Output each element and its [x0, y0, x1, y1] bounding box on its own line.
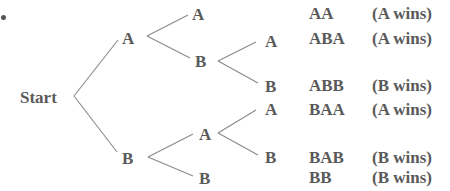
node-BAA: A: [265, 101, 277, 118]
outcome-result: (A wins): [372, 101, 432, 118]
branch-start-B: [74, 96, 117, 152]
branch-AB-A: [218, 42, 256, 61]
node-AB: B: [195, 53, 206, 70]
outcome-result: (B wins): [372, 77, 432, 94]
outcome-sequence: ABB: [309, 77, 344, 94]
tree-diagram: Start A B A B A B A B A B AA (A wins) AB…: [0, 0, 450, 191]
outcome-result: (B wins): [372, 149, 432, 166]
node-ABB: B: [265, 78, 276, 95]
node-B: B: [122, 150, 133, 167]
outcome-sequence: AA: [309, 5, 334, 22]
node-BAB: B: [265, 149, 276, 166]
branch-A-A: [147, 15, 188, 36]
branch-B-A: [148, 134, 193, 157]
outcome-sequence: BB: [309, 169, 332, 186]
outcome-result: (B wins): [372, 169, 432, 186]
branch-AB-B: [218, 61, 258, 83]
branch-B-B: [148, 157, 193, 176]
node-AA: A: [192, 6, 204, 23]
node-ABA: A: [265, 33, 277, 50]
branch-start-A: [74, 40, 118, 96]
outcome-sequence: BAA: [309, 101, 345, 118]
outcome-sequence: ABA: [309, 30, 345, 47]
branch-BA-B: [218, 133, 258, 155]
branch-BA-A: [218, 110, 256, 133]
outcome-result: (A wins): [372, 30, 432, 47]
node-A: A: [122, 30, 134, 47]
outcome-sequence: BAB: [309, 149, 344, 166]
node-BA: A: [199, 126, 211, 143]
branch-A-B: [147, 36, 190, 58]
outcome-result: (A wins): [372, 5, 432, 22]
node-BB: B: [199, 170, 210, 187]
start-node: Start: [20, 89, 57, 106]
